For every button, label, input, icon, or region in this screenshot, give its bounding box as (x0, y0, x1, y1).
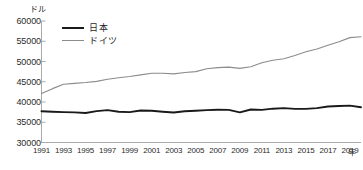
legend-label-germany: ドイツ (89, 34, 118, 47)
legend-label-japan: 日本 (89, 21, 108, 34)
y-axis-ticks (42, 21, 46, 122)
legend-line-swatch-germany (62, 40, 84, 41)
legend-item-germany: ドイツ (62, 35, 118, 46)
plot-area (0, 0, 363, 170)
series-line (42, 106, 362, 113)
chart-legend: 日本 ドイツ (62, 22, 118, 46)
chart-container: ドル 60000550005000045000400003500030000 1… (0, 0, 363, 170)
legend-item-japan: 日本 (62, 22, 118, 33)
legend-line-swatch-japan (62, 27, 84, 29)
data-series-group (42, 37, 362, 113)
